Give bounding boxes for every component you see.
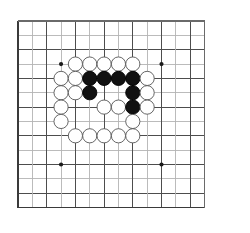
white-stone[interactable] (68, 86, 82, 100)
black-stone[interactable] (126, 86, 140, 100)
black-stone[interactable] (83, 86, 97, 100)
go-board[interactable] (0, 0, 250, 233)
white-stone[interactable] (54, 71, 68, 85)
white-stone[interactable] (111, 57, 125, 71)
white-stone[interactable] (97, 100, 111, 114)
white-stone[interactable] (126, 114, 140, 128)
white-stone[interactable] (140, 100, 154, 114)
white-stone[interactable] (97, 57, 111, 71)
black-stone[interactable] (126, 100, 140, 114)
white-stone[interactable] (54, 100, 68, 114)
star-point (159, 162, 163, 166)
white-stone[interactable] (68, 57, 82, 71)
white-stone[interactable] (68, 71, 82, 85)
white-stone[interactable] (54, 114, 68, 128)
black-stone[interactable] (83, 71, 97, 85)
black-stone[interactable] (111, 71, 125, 85)
white-stone[interactable] (140, 86, 154, 100)
white-stone[interactable] (126, 129, 140, 143)
white-stone[interactable] (140, 71, 154, 85)
star-point (59, 62, 63, 66)
black-stone[interactable] (97, 71, 111, 85)
star-point (159, 62, 163, 66)
white-stone[interactable] (111, 129, 125, 143)
white-stone[interactable] (126, 57, 140, 71)
white-stone[interactable] (54, 86, 68, 100)
white-stone[interactable] (83, 129, 97, 143)
white-stone[interactable] (111, 100, 125, 114)
white-stone[interactable] (68, 129, 82, 143)
white-stone[interactable] (83, 57, 97, 71)
black-stone[interactable] (126, 71, 140, 85)
star-point (59, 162, 63, 166)
go-board-figure (0, 0, 250, 233)
white-stone[interactable] (97, 129, 111, 143)
